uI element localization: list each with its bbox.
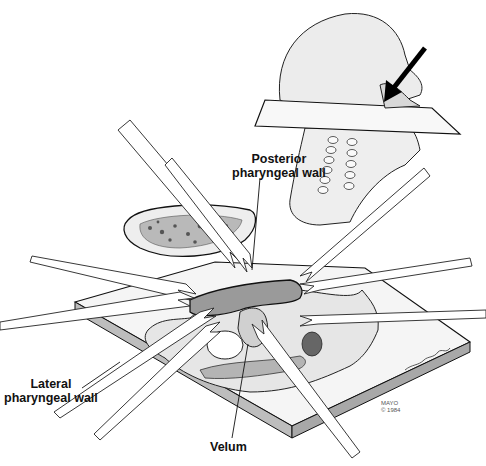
head-lateral-view bbox=[255, 13, 460, 225]
credit-line2: © 1984 bbox=[381, 407, 400, 414]
lateral-label-line1: Lateral bbox=[4, 377, 98, 391]
mayo-credit: MAYO © 1984 bbox=[381, 400, 400, 414]
posterior-label-line2: pharyngeal wall bbox=[232, 166, 326, 180]
posterior-pharyngeal-wall-label: Posterior pharyngeal wall bbox=[232, 152, 326, 180]
lateral-label-line2: pharyngeal wall bbox=[4, 391, 98, 405]
credit-line1: MAYO bbox=[381, 400, 400, 407]
velum-label: Velum bbox=[210, 440, 247, 454]
posterior-label-line1: Posterior bbox=[232, 152, 326, 166]
lateral-pharyngeal-wall-label: Lateral pharyngeal wall bbox=[4, 377, 98, 405]
